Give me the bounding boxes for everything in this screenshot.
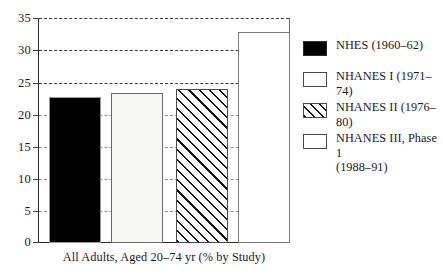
bar-nhanes-ii-1976-80 — [176, 89, 228, 243]
y-tick-label-30: 30 — [1, 44, 31, 57]
y-tick-label-5: 5 — [1, 205, 31, 218]
legend-label-nhanes-ii: NHANES II (1976–80) — [336, 100, 443, 129]
bar-nhes-1960-62 — [49, 97, 101, 243]
y-tick-mark-5 — [33, 211, 39, 212]
y-tick-label-35: 35 — [1, 12, 31, 25]
bar-nhanes-i-1971-74 — [111, 93, 163, 243]
y-tick-mark-20 — [33, 115, 39, 116]
y-tick-label-15: 15 — [1, 141, 31, 154]
legend-swatch-hatched-icon — [303, 103, 327, 118]
legend-item-nhanes-i: NHANES I (1971–74) — [303, 71, 443, 101]
legend-label-nhanes-i: NHANES I (1971–74) — [336, 69, 443, 98]
y-tick-label-10: 10 — [1, 173, 31, 186]
y-tick-mark-25 — [33, 83, 39, 84]
legend-swatch-solid-icon — [303, 41, 327, 56]
legend-label-nhes: NHES (1960–62) — [336, 38, 443, 53]
y-tick-label-0: 0 — [1, 236, 31, 249]
y-tick-mark-35 — [33, 18, 39, 19]
legend-swatch-open-light-icon — [303, 72, 327, 87]
legend-item-nhanes-ii: NHANES II (1976–80) — [303, 102, 443, 132]
y-axis-line — [38, 18, 39, 243]
bar-chart-figure: 35 30 25 20 15 10 5 0 All Adults, Aged 2… — [0, 0, 443, 279]
y-tick-label-20: 20 — [1, 109, 31, 122]
x-axis-caption: All Adults, Aged 20–74 yr (% by Study) — [38, 250, 290, 264]
legend-label-nhanes-iii: NHANES III, Phase 1 (1988–91) — [336, 131, 443, 175]
gridline-35 — [39, 18, 289, 19]
legend-item-nhes: NHES (1960–62) — [303, 40, 443, 70]
legend-swatch-open-white-icon — [303, 134, 327, 149]
y-tick-label-25: 25 — [1, 77, 31, 90]
y-tick-mark-30 — [33, 50, 39, 51]
y-tick-mark-10 — [33, 179, 39, 180]
bar-nhanes-iii-phase-1-1988-91 — [238, 32, 290, 243]
y-tick-mark-15 — [33, 147, 39, 148]
legend-item-nhanes-iii: NHANES III, Phase 1 (1988–91) — [303, 133, 443, 167]
y-tick-mark-0 — [33, 242, 39, 243]
